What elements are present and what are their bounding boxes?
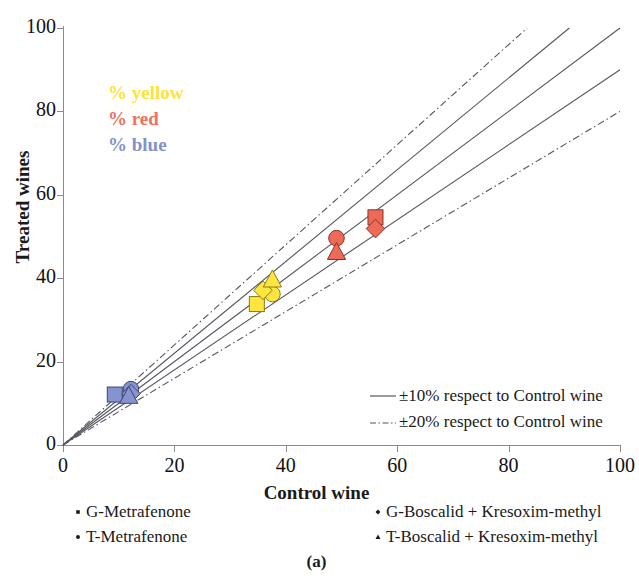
reference-line-legend: ±10% respect to Control wine±20% respect… xyxy=(370,383,603,436)
dashdot-line-icon xyxy=(370,418,396,428)
marker-legend: G-MetrafenoneT-Metrafenone G-Boscalid + … xyxy=(0,500,633,546)
figure-caption: (a) xyxy=(0,552,633,572)
color-annotation-2: % blue xyxy=(108,132,183,158)
y-tick-label-0: 0 xyxy=(0,433,56,453)
data-point-square xyxy=(107,387,122,402)
x-tick-label-80: 80 xyxy=(479,455,539,475)
x-tick-label-20: 20 xyxy=(144,455,204,475)
x-tick-0 xyxy=(63,446,64,452)
x-tick-60 xyxy=(397,446,398,452)
line-legend-entry-0: ±10% respect to Control wine xyxy=(370,383,603,409)
x-tick-20 xyxy=(174,446,175,452)
marker-legend-label: T-Metrafenone xyxy=(86,525,187,550)
color-annotations: % yellow% red% blue xyxy=(108,80,183,158)
line-legend-label: ±20% respect to Control wine xyxy=(399,409,603,435)
y-tick-label-60: 60 xyxy=(0,183,56,203)
circle-marker-icon xyxy=(72,530,84,544)
marker-legend-left-column: G-MetrafenoneT-Metrafenone xyxy=(72,500,191,549)
line-legend-label: ±10% respect to Control wine xyxy=(399,383,603,409)
x-tick-label-60: 60 xyxy=(367,455,427,475)
y-tick-label-80: 80 xyxy=(0,99,56,119)
x-tick-40 xyxy=(286,446,287,452)
y-tick-label-40: 40 xyxy=(0,266,56,286)
triangle-marker-icon xyxy=(372,530,384,544)
diamond-marker-icon xyxy=(372,505,384,519)
x-tick-100 xyxy=(620,446,621,452)
x-tick-label-0: 0 xyxy=(33,455,93,475)
marker-legend-right-column: G-Boscalid + Kresoxim-methylT-Boscalid +… xyxy=(372,500,601,549)
x-tick-label-100: 100 xyxy=(590,455,639,475)
x-tick-label-40: 40 xyxy=(256,455,316,475)
marker-legend-entry-1: T-Metrafenone xyxy=(72,525,191,550)
x-tick-80 xyxy=(509,446,510,452)
x-axis-title: Control wine xyxy=(0,482,633,504)
line-legend-entry-1: ±20% respect to Control wine xyxy=(370,409,603,435)
marker-legend-label: T-Boscalid + Kresoxim-methyl xyxy=(386,525,598,550)
solid-line-icon xyxy=(370,391,396,401)
x-axis-line xyxy=(62,445,621,446)
color-annotation-1: % red xyxy=(108,106,183,132)
color-annotation-0: % yellow xyxy=(108,80,183,106)
y-tick-label-100: 100 xyxy=(0,16,56,36)
marker-legend-entry-3: T-Boscalid + Kresoxim-methyl xyxy=(372,525,601,550)
y-tick-label-20: 20 xyxy=(0,350,56,370)
square-marker-icon xyxy=(72,505,84,519)
